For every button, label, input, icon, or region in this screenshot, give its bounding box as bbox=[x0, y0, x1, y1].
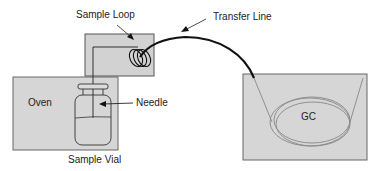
transfer-line-label: Transfer Line bbox=[213, 12, 272, 22]
sample-loop-label: Sample Loop bbox=[76, 10, 135, 20]
needle-label: Needle bbox=[136, 98, 168, 108]
gc-label: GC bbox=[301, 112, 316, 122]
sample-vial-label: Sample Vial bbox=[68, 155, 121, 165]
oven-label: Oven bbox=[28, 98, 52, 108]
headspace-diagram bbox=[0, 0, 379, 171]
sample-loop-box bbox=[85, 34, 154, 76]
transfer-line bbox=[140, 37, 254, 78]
